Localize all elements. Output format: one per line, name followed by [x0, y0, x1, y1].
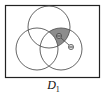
marker-1: [56, 33, 61, 38]
diagram-caption: D1: [0, 78, 107, 94]
circle-left: [16, 28, 58, 70]
caption-subscript: 1: [56, 85, 60, 94]
caption-text: D: [47, 78, 56, 92]
marker-2: [68, 44, 73, 49]
